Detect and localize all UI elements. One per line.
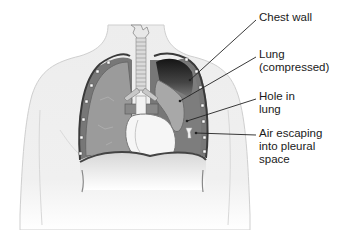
label-hole-in-lung: Hole in lung	[259, 90, 295, 116]
label-air-escaping: Air escaping into pleural space	[259, 127, 322, 166]
anatomy-illustration	[0, 0, 350, 230]
pneumothorax-diagram: Chest wall Lung (compressed) Hole in lun…	[0, 0, 350, 230]
abdomen	[80, 152, 206, 190]
vessel	[125, 104, 137, 114]
label-lung-compressed: Lung (compressed)	[259, 48, 329, 74]
label-chest-wall: Chest wall	[259, 11, 312, 24]
vessel	[146, 104, 158, 114]
